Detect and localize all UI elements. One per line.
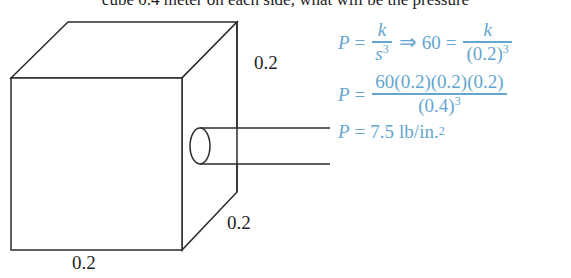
cube-with-pipe-diagram xyxy=(0,8,340,270)
equation-1-frac1-den-base: s xyxy=(375,43,382,64)
equation-1-value: 60 xyxy=(422,33,441,52)
equation-1-variable: P xyxy=(338,33,350,52)
equation-1-frac2-den-base: (0.2) xyxy=(466,43,502,64)
equation-3-variable: P xyxy=(338,122,350,141)
equation-1-equals-2: = xyxy=(446,33,457,52)
equation-2-den-base: (0.4) xyxy=(418,95,454,116)
equation-line-2: P = 60(0.2)(0.2)(0.2) (0.4)3 xyxy=(338,66,571,122)
equation-1-frac1-den-exponent: 3 xyxy=(383,41,389,55)
equation-3-value: 7.5 xyxy=(370,122,394,141)
equation-1-implies-arrow: ⇒ xyxy=(399,32,417,53)
equation-1-frac1-denominator: s3 xyxy=(372,44,391,64)
dimension-label-right-top: 0.2 xyxy=(254,53,278,72)
dimension-label-bottom: 0.2 xyxy=(72,253,96,272)
equation-1-equals: = xyxy=(355,33,366,52)
equation-2-variable: P xyxy=(338,85,350,104)
pipe-body xyxy=(200,128,330,164)
figure-page: cube 0.4 meter on each side, what will b… xyxy=(0,0,571,278)
equation-1-frac2-denominator: (0.2)3 xyxy=(463,44,511,64)
equation-1-frac1-numerator: k xyxy=(375,20,389,40)
equation-2-numerator: 60(0.2)(0.2)(0.2) xyxy=(372,72,506,92)
equation-1-frac2-den-exponent: 3 xyxy=(503,41,509,55)
equation-2-equals: = xyxy=(355,85,366,104)
worked-solution: P = k s3 ⇒ 60 = k (0.2)3 P = 60(0.2)(0.2… xyxy=(338,14,571,144)
equation-1-frac2-numerator: k xyxy=(480,20,494,40)
cube-front-face xyxy=(11,78,182,250)
equation-2-denominator: (0.4)3 xyxy=(415,96,463,116)
dimension-label-right-bottom: 0.2 xyxy=(227,213,251,232)
equation-2-fraction: 60(0.2)(0.2)(0.2) (0.4)3 xyxy=(372,72,506,115)
equation-3-unit: lb/in. xyxy=(399,122,439,141)
equation-3-equals: = xyxy=(355,122,366,141)
pipe-opening-ellipse xyxy=(190,128,210,164)
equation-line-1: P = k s3 ⇒ 60 = k (0.2)3 xyxy=(338,14,571,70)
equation-1-fraction-1: k s3 xyxy=(372,20,391,63)
equation-1-fraction-2: k (0.2)3 xyxy=(463,20,511,63)
equation-2-den-exponent: 3 xyxy=(455,93,461,107)
equation-line-3: P = 7.5 lb/in.2 xyxy=(338,118,571,144)
